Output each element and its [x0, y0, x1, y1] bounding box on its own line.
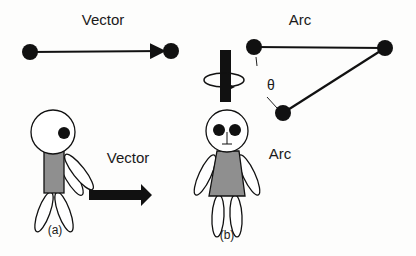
vector-end-point [163, 43, 179, 59]
vector-diagram: Vector [22, 11, 179, 60]
vector-arrow [30, 51, 164, 52]
vector-start-point [22, 44, 38, 60]
figure-a-caption: (a) [48, 223, 63, 237]
theta-label: θ [267, 77, 275, 93]
angle-tick-bottom [267, 97, 277, 108]
arc-point-bottom [275, 105, 291, 121]
rotation-arrow-icon [229, 84, 235, 90]
figure-a: (a) [31, 110, 97, 237]
arc-point-left [246, 39, 262, 55]
figure-b-head [206, 110, 248, 152]
arc-diagram: Arc θ [246, 11, 393, 121]
arc-diagonal-line [283, 48, 385, 113]
figure-a-eye [58, 127, 70, 139]
figure-b-caption: (b) [220, 228, 235, 242]
block-arrow-icon [89, 184, 152, 206]
arc-top-line [254, 47, 385, 48]
vector-title: Vector [82, 11, 125, 28]
figure-b-motion-label: Arc [269, 145, 292, 162]
post-bar [220, 50, 231, 102]
translation-arrow: Vector [89, 149, 152, 206]
angle-tick-top [256, 57, 257, 66]
figure-a-motion-label: Vector [107, 149, 150, 166]
figure-b-eye-right [229, 124, 241, 136]
figure-b: (b) Arc [190, 110, 291, 242]
diagram-canvas: Vector Arc θ (a) Vector [0, 0, 416, 256]
arc-title: Arc [289, 11, 312, 28]
arc-point-right [377, 40, 393, 56]
rotation-post [204, 50, 244, 102]
figure-a-body [44, 151, 64, 193]
figure-b-eye-left [213, 124, 225, 136]
